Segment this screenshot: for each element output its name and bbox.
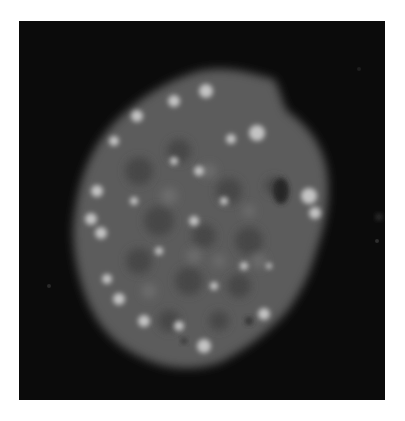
background-speck: [47, 284, 51, 288]
nucleus-body: [73, 69, 328, 368]
background-speck: [375, 239, 379, 243]
micrograph-frame: Fluorescence microscopy image of a nucle…: [19, 21, 385, 400]
nucleus-micrograph: [19, 21, 385, 400]
background-speck: [357, 67, 361, 71]
background-speck: [376, 214, 382, 220]
